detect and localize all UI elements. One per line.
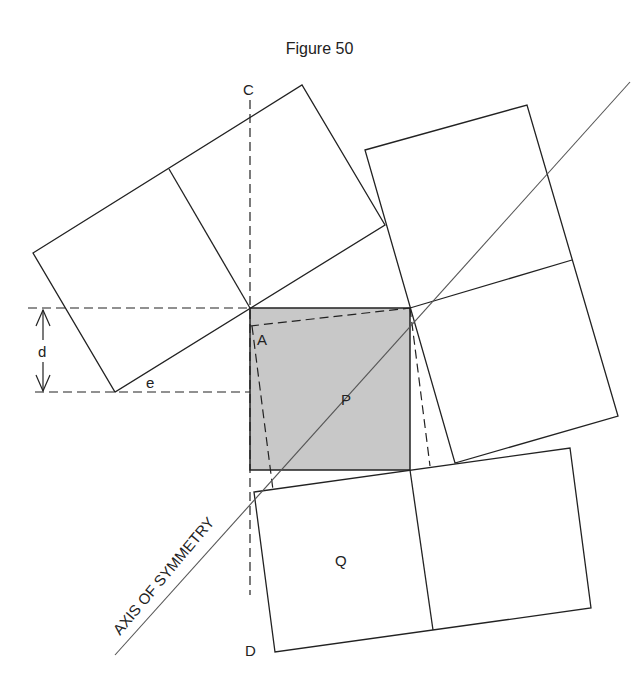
label-d-dimension: d: [38, 343, 46, 360]
line-right-vertical: [410, 308, 430, 466]
label-p: P: [341, 391, 351, 408]
axis-of-symmetry: [115, 82, 630, 655]
label-d-point: D: [245, 642, 256, 659]
geometry-diagram: C D A P Q d e AXIS OF SYMMETRY: [0, 0, 639, 685]
label-q: Q: [335, 552, 347, 569]
rectangle-bottom: [254, 448, 591, 652]
label-c: C: [243, 81, 254, 98]
label-a: A: [257, 331, 267, 348]
label-e: e: [146, 374, 154, 391]
label-axis-of-symmetry: AXIS OF SYMMETRY: [109, 514, 217, 638]
square-p: [250, 308, 410, 470]
